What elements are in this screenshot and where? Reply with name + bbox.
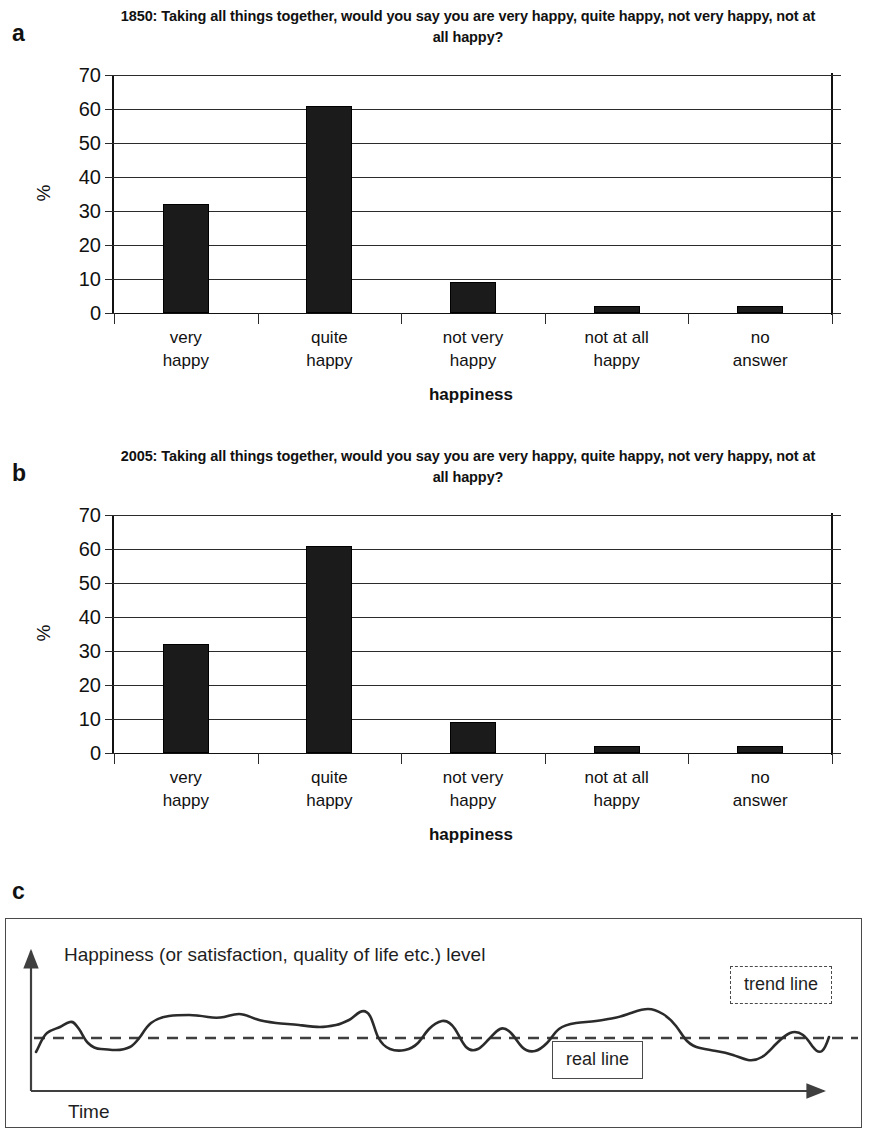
x-axis-category-label: not at allhappy <box>584 327 648 373</box>
y-axis-tick-label: 0 <box>90 302 101 325</box>
y-axis-tick <box>105 211 114 212</box>
legend-trend-line: trend line <box>730 966 832 1004</box>
y-axis-tick-label: 70 <box>79 64 101 87</box>
x-axis-category-label: veryhappy <box>163 327 209 373</box>
y-axis-tick-right <box>832 211 841 212</box>
y-axis-tick-right <box>832 583 841 584</box>
y-axis-tick-right <box>832 143 841 144</box>
y-axis-tick <box>105 143 114 144</box>
bar <box>737 746 783 753</box>
plot-area-a: 010203040506070veryhappyquitehappynot ve… <box>112 75 832 314</box>
bar <box>306 546 352 753</box>
y-axis-tick-right <box>832 685 841 686</box>
gridline <box>114 685 832 686</box>
y-axis-tick-label: 30 <box>79 200 101 223</box>
y-axis-tick <box>105 177 114 178</box>
x-axis-tick <box>401 313 402 324</box>
x-axis-category-label: not veryhappy <box>443 767 503 813</box>
c-y-axis-label: Happiness (or satisfaction, quality of l… <box>64 944 485 966</box>
y-axis-tick-right <box>832 75 841 76</box>
gridline <box>114 75 832 76</box>
gridline <box>114 583 832 584</box>
chart-title-b: 2005: Taking all things together, would … <box>118 446 818 488</box>
gridline <box>114 651 832 652</box>
bar <box>163 644 209 753</box>
y-axis-tick <box>105 753 114 754</box>
y-axis-tick <box>105 75 114 76</box>
y-axis-tick-right <box>832 109 841 110</box>
y-axis-tick-label: 40 <box>79 166 101 189</box>
gridline <box>114 279 832 280</box>
x-axis-tick <box>114 753 115 764</box>
x-axis-tick <box>832 313 833 324</box>
y-axis-tick <box>105 245 114 246</box>
y-axis-tick-label: 50 <box>79 132 101 155</box>
y-axis-tick-label: 60 <box>79 538 101 561</box>
x-axis-tick <box>545 753 546 764</box>
x-axis-tick <box>832 753 833 764</box>
y-axis-tick <box>105 313 114 314</box>
panel-letter-c: c <box>12 880 25 903</box>
x-axis-tick <box>688 753 689 764</box>
y-axis-tick-right <box>832 245 841 246</box>
y-axis-tick-right <box>832 549 841 550</box>
gridline <box>114 143 832 144</box>
y-axis-title-a: % <box>33 185 55 202</box>
y-axis-tick <box>105 515 114 516</box>
gridline <box>114 549 832 550</box>
y-axis-tick-right <box>832 753 841 754</box>
x-axis-category-label: quitehappy <box>306 767 352 813</box>
y-axis-tick <box>105 617 114 618</box>
bar <box>594 746 640 753</box>
gridline <box>114 177 832 178</box>
y-axis-tick <box>105 583 114 584</box>
gridline <box>114 515 832 516</box>
y-axis-tick-label: 0 <box>90 742 101 765</box>
legend-real-line: real line <box>552 1041 643 1079</box>
y-axis-tick-label: 40 <box>79 606 101 629</box>
y-axis-tick-label: 10 <box>79 268 101 291</box>
x-axis-tick <box>258 753 259 764</box>
gridline <box>114 719 832 720</box>
gridline <box>114 617 832 618</box>
bar <box>594 306 640 313</box>
c-x-axis-label: Time <box>68 1101 110 1123</box>
panel-letter-a: a <box>12 22 25 45</box>
y-axis-tick <box>105 651 114 652</box>
x-axis-category-label: noanswer <box>733 767 788 813</box>
y-axis-tick-right <box>832 617 841 618</box>
x-axis-category-label: veryhappy <box>163 767 209 813</box>
bar <box>450 722 496 753</box>
y-axis-tick <box>105 279 114 280</box>
y-axis-tick-right <box>832 651 841 652</box>
panel-letter-b: b <box>12 462 26 485</box>
y-axis-tick-right <box>832 177 841 178</box>
y-axis-tick-label: 30 <box>79 640 101 663</box>
y-axis-tick-right <box>832 719 841 720</box>
y-axis-tick <box>105 685 114 686</box>
x-axis-tick <box>258 313 259 324</box>
x-axis-category-label: noanswer <box>733 327 788 373</box>
y-axis-tick-right <box>832 515 841 516</box>
gridline <box>114 245 832 246</box>
y-axis-tick-right <box>832 313 841 314</box>
x-axis-tick <box>114 313 115 324</box>
y-axis-title-b: % <box>33 625 55 642</box>
x-axis-title-b: happiness <box>112 825 830 845</box>
x-axis-category-label: not veryhappy <box>443 327 503 373</box>
y-axis-tick-right <box>832 279 841 280</box>
y-axis-tick-label: 50 <box>79 572 101 595</box>
x-axis-category-label: not at allhappy <box>584 767 648 813</box>
y-axis-tick <box>105 549 114 550</box>
bar <box>737 306 783 313</box>
plot-area-b: 010203040506070veryhappyquitehappynot ve… <box>112 515 832 754</box>
x-axis-category-label: quitehappy <box>306 327 352 373</box>
bar <box>450 282 496 313</box>
x-axis-title-a: happiness <box>112 385 830 405</box>
y-axis-tick-label: 60 <box>79 98 101 121</box>
x-axis-tick <box>401 753 402 764</box>
bar <box>306 106 352 313</box>
x-axis-tick <box>545 313 546 324</box>
y-axis-tick-label: 70 <box>79 504 101 527</box>
y-axis-tick <box>105 719 114 720</box>
